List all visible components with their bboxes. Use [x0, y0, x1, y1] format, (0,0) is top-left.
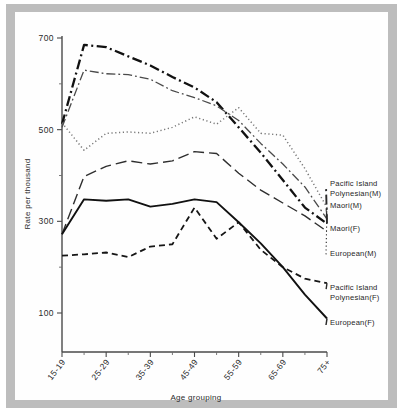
y-tick-label: 100: [39, 308, 54, 318]
y-tick-label: 700: [39, 33, 54, 43]
series-paths: [62, 45, 327, 319]
x-tick-label: 55-59: [222, 357, 245, 382]
series-label-line: Pacific Island: [330, 283, 378, 292]
series-label-maori-f: Maori(F): [330, 224, 361, 233]
series-label-maori-m: Maori(M): [330, 201, 362, 210]
series-label-line: Polynesian(M): [330, 189, 381, 198]
series-label-pacific-island-polynesian-f: Pacific IslandPolynesian(F): [330, 283, 380, 302]
x-tick-label: 35-39: [133, 357, 156, 382]
series-label-line: European(F): [330, 318, 375, 327]
leader-line: [326, 319, 327, 326]
series-label-line: European(M): [330, 249, 377, 258]
series-label-line: Maori(F): [330, 224, 361, 233]
x-tick-label: 25-29: [89, 357, 112, 382]
y-axis-tick-labels: 700500300100: [39, 33, 54, 318]
x-axis-title: Age grouping: [170, 393, 221, 402]
x-axis-tick-labels: 15-1925-2935-3945-4955-5965-6975+: [45, 357, 333, 382]
x-tick-label: 15-19: [45, 357, 68, 382]
series-line-pacific-island-polynesian-m: [62, 45, 327, 224]
y-tick-label: 500: [39, 125, 54, 135]
y-axis-ticks: [57, 38, 62, 313]
series-label-european-m: European(M): [330, 249, 377, 258]
x-axis-ticks: [62, 352, 327, 357]
series-label-line: Maori(M): [330, 201, 362, 210]
series-line-european-m: [62, 108, 327, 208]
x-tick-label: 65-69: [266, 357, 289, 382]
line-chart: 700500300100 15-1925-2935-3945-4955-5965…: [0, 0, 403, 416]
y-axis-title: Rate per thousand: [23, 159, 32, 230]
series-label-line: Pacific Island: [330, 179, 378, 188]
x-tick-label: 75+: [315, 357, 332, 375]
x-tick-label: 45-49: [178, 357, 201, 382]
figure-page: 700500300100 15-1925-2935-3945-4955-5965…: [0, 0, 403, 416]
legend-leader-lines: [326, 186, 327, 325]
legend-labels: Pacific IslandPolynesian(M)Maori(M)Maori…: [330, 179, 381, 327]
series-line-maori-m: [62, 70, 327, 219]
y-tick-label: 300: [39, 216, 54, 226]
leader-line: [326, 283, 327, 290]
series-label-pacific-island-polynesian-m: Pacific IslandPolynesian(M): [330, 179, 381, 198]
series-label-line: Polynesian(F): [330, 293, 380, 302]
series-label-european-f: European(F): [330, 318, 375, 327]
series-line-european-f: [62, 199, 327, 318]
series-line-maori-f: [62, 152, 327, 235]
